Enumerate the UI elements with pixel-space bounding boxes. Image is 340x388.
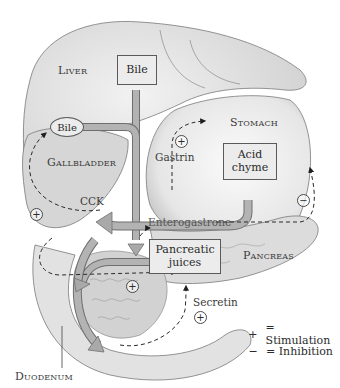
gallbladder-label: Gallbladder xyxy=(47,157,116,168)
digestive-regulation-diagram: Liver Gallbladder Stomach Pancreas Duode… xyxy=(0,0,340,388)
secretin-stimulation-icon: + xyxy=(194,311,207,324)
legend-inhibition: − = Inhibition xyxy=(248,345,333,358)
gastrin-label: Gastrin xyxy=(155,152,194,163)
legend-stimulation-label: = Stimulation xyxy=(266,321,340,347)
minus-icon: − xyxy=(248,345,258,358)
enterogastrone-inhibition-icon: − xyxy=(297,194,310,207)
stomach-label: Stomach xyxy=(230,117,278,128)
bile-liver-box: Bile xyxy=(117,55,157,85)
cck-label: CCK xyxy=(80,196,104,207)
liver-label: Liver xyxy=(58,65,87,76)
bile-gallbladder-text: Bile xyxy=(57,122,77,133)
bile-gallbladder-oval: Bile xyxy=(50,117,84,137)
legend-stimulation: + = Stimulation xyxy=(248,321,340,347)
cck-stimulation-icon: + xyxy=(30,208,43,221)
gastrin-stimulation-icon: + xyxy=(175,135,188,148)
duodenum-label: Duodenum xyxy=(15,371,73,382)
pancreatic-juices-box: Pancreatic juices xyxy=(149,239,221,274)
acid-chyme-box: Acid chyme xyxy=(223,143,277,180)
acid-chyme-text: Acid chyme xyxy=(230,149,270,174)
duodenum-stimulation-icon: + xyxy=(126,280,139,293)
bile-liver-text: Bile xyxy=(126,64,148,77)
legend-inhibition-label: = Inhibition xyxy=(266,345,333,358)
plus-icon: + xyxy=(248,328,258,341)
secretin-label: Secretin xyxy=(193,297,238,308)
pancreatic-juices-text: Pancreatic juices xyxy=(155,244,214,269)
pancreas-label: Pancreas xyxy=(243,250,294,261)
enterogastrone-label: Enterogastrone xyxy=(148,217,231,228)
